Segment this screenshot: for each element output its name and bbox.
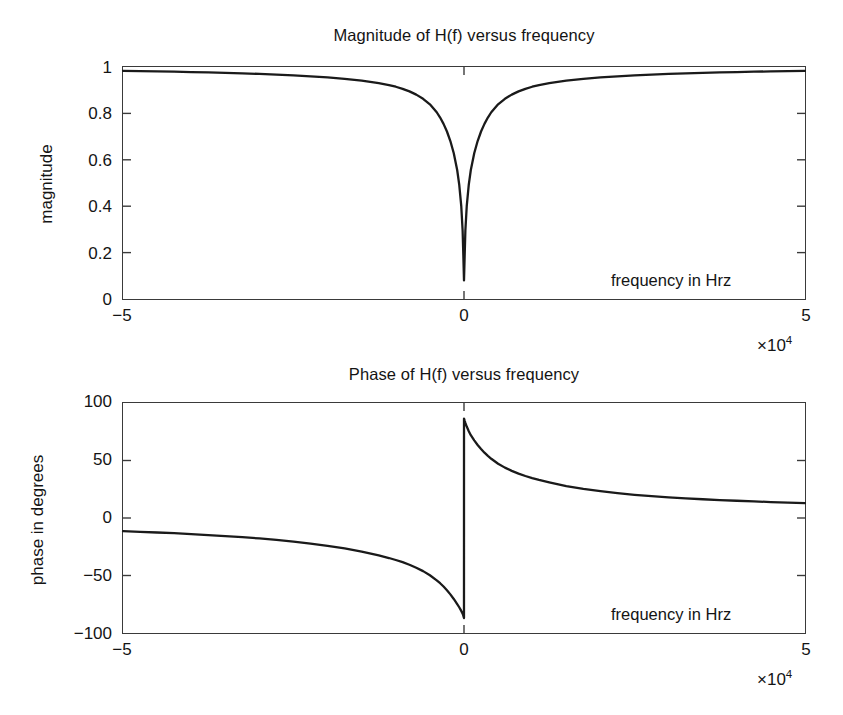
magnitude-plot-area	[122, 66, 806, 300]
magnitude-y-axis-label: magnitude	[37, 119, 57, 249]
phase-axis-exponent: ×104	[757, 668, 792, 690]
figure-canvas: Magnitude of H(f) versus frequency 1 0.8…	[0, 0, 843, 715]
phase-xtick-zero: 0	[459, 640, 468, 660]
magnitude-ytick-0-8: 0.8	[60, 104, 112, 124]
magnitude-exponent-power: 4	[786, 334, 792, 346]
magnitude-ytick-0-4: 0.4	[60, 197, 112, 217]
magnitude-ytick-1: 1	[60, 58, 112, 78]
magnitude-axis-exponent: ×104	[757, 334, 792, 356]
magnitude-exponent-times: ×10	[757, 336, 786, 355]
magnitude-curve-svg	[123, 67, 805, 299]
magnitude-data-line	[123, 71, 805, 280]
phase-xtick-max: 5	[801, 640, 810, 660]
magnitude-xtick-zero: 0	[459, 306, 468, 326]
magnitude-ytick-0: 0	[60, 290, 112, 310]
magnitude-ytick-0-6: 0.6	[60, 151, 112, 171]
phase-ytick-100: 100	[34, 392, 112, 412]
magnitude-panel: Magnitude of H(f) versus frequency 1 0.8…	[0, 0, 843, 360]
phase-y-axis-label: phase in degrees	[28, 430, 48, 610]
phase-exponent-times: ×10	[757, 670, 786, 689]
phase-curve-svg	[123, 403, 805, 633]
phase-panel: Phase of H(f) versus frequency 100 50 0 …	[0, 355, 843, 715]
magnitude-xtick-min: −5	[112, 306, 131, 326]
magnitude-ytick-0-2: 0.2	[60, 244, 112, 264]
phase-frequency-annotation: frequency in Hrz	[611, 605, 731, 624]
phase-ytick-neg100: −100	[34, 624, 112, 644]
phase-xtick-min: −5	[112, 640, 131, 660]
magnitude-xtick-max: 5	[801, 306, 810, 326]
phase-data-line	[123, 419, 805, 619]
phase-chart-title: Phase of H(f) versus frequency	[122, 365, 806, 384]
magnitude-frequency-annotation: frequency in Hrz	[611, 271, 731, 290]
phase-plot-area	[122, 402, 806, 634]
phase-exponent-power: 4	[786, 668, 792, 680]
magnitude-chart-title: Magnitude of H(f) versus frequency	[122, 26, 806, 45]
